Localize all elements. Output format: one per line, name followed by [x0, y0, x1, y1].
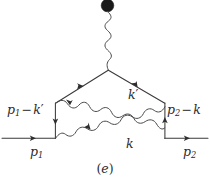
- label-p1-minus-kprime-op: −: [20, 102, 33, 117]
- label-p2-minus-k-base: p: [167, 102, 175, 117]
- figure-caption-close: ): [109, 161, 114, 176]
- external-source-blob: [101, 0, 114, 12]
- label-p2: p2: [183, 146, 196, 159]
- label-p2-minus-k: p2−k: [167, 104, 201, 117]
- photon-line-kprime: [56, 100, 165, 129]
- label-k-base: k: [126, 136, 134, 151]
- photon-line-k: [56, 107, 165, 138]
- upper-left-fermion-arrowhead: [77, 83, 84, 89]
- label-p2-sub: 2: [191, 150, 196, 160]
- feynman-diagram-figure: p1−k′ p2−k k′ k p1 p2 (e): [0, 0, 210, 185]
- figure-caption-letter: e: [101, 161, 108, 176]
- label-kprime: k′: [128, 89, 138, 102]
- label-k: k: [126, 138, 134, 151]
- label-p1: p1: [30, 146, 43, 159]
- label-p1-minus-kprime-second: k: [33, 102, 41, 117]
- label-p1-minus-kprime: p1−k′: [7, 104, 43, 117]
- figure-caption: (e): [0, 163, 210, 176]
- label-p1-minus-kprime-base: p: [7, 102, 15, 117]
- label-kprime-prime: ′: [136, 87, 139, 102]
- label-p1-base: p: [30, 144, 38, 159]
- label-p2-minus-k-second: k: [193, 102, 201, 117]
- label-p2-minus-k-op: −: [180, 102, 193, 117]
- label-p1-sub: 1: [38, 150, 43, 160]
- label-kprime-base: k: [128, 87, 136, 102]
- label-p1-minus-kprime-prime: ′: [41, 102, 44, 117]
- label-p2-base: p: [183, 144, 191, 159]
- external-photon-wavy-line: [105, 12, 111, 70]
